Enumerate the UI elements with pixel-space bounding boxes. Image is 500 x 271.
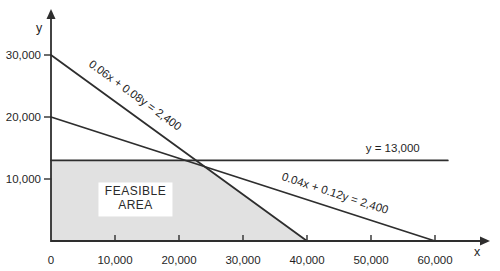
feasible-region-figure: 010,00020,00030,00040,00050,00060,00010,… <box>0 0 500 271</box>
y-tick-label: 20,000 <box>6 111 41 123</box>
y-tick-label: 10,000 <box>6 173 41 185</box>
x-tick-label: 0 <box>48 254 54 266</box>
x-axis-label: x <box>474 245 481 259</box>
y-tick-label: 30,000 <box>6 49 41 61</box>
x-tick-label: 10,000 <box>97 254 132 266</box>
y-axis-label: y <box>36 21 43 35</box>
x-tick-label: 30,000 <box>225 254 260 266</box>
x-tick-label: 50,000 <box>353 254 388 266</box>
y-equals-13000-label: y = 13,000 <box>366 142 420 154</box>
chart-svg: 010,00020,00030,00040,00050,00060,00010,… <box>0 0 500 271</box>
feasible-area-label: AREA <box>118 198 153 212</box>
x-tick-label: 40,000 <box>289 254 324 266</box>
feasible-area-label: FEASIBLE <box>105 184 166 198</box>
x-tick-label: 60,000 <box>417 254 452 266</box>
x-tick-label: 20,000 <box>161 254 196 266</box>
